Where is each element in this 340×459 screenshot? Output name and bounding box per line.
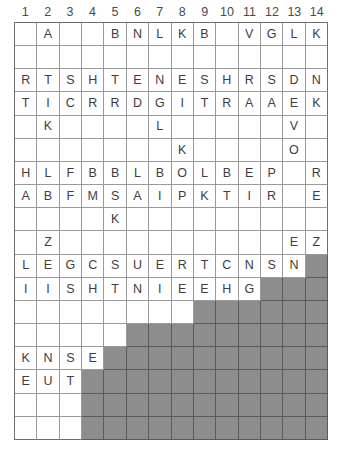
grid-cell-empty[interactable] [82, 116, 104, 139]
grid-cell-letter[interactable]: K [306, 23, 328, 46]
grid-cell-letter[interactable]: I [149, 185, 171, 208]
grid-cell-empty[interactable] [194, 139, 216, 162]
grid-cell-empty[interactable] [60, 208, 82, 231]
grid-cell-letter[interactable]: T [15, 92, 37, 115]
grid-cell-letter[interactable]: N [127, 23, 149, 46]
grid-cell-letter[interactable]: H [15, 162, 37, 185]
grid-cell-empty[interactable] [239, 116, 261, 139]
grid-cell-letter[interactable]: G [239, 278, 261, 301]
grid-cell-letter[interactable]: S [60, 69, 82, 92]
grid-cell-empty[interactable] [172, 231, 194, 254]
grid-cell-letter[interactable]: S [104, 185, 126, 208]
grid-cell-empty[interactable] [306, 139, 328, 162]
grid-cell-empty[interactable] [104, 46, 126, 69]
grid-cell-letter[interactable]: A [37, 23, 59, 46]
grid-cell-empty[interactable] [216, 116, 238, 139]
grid-cell-letter[interactable]: D [283, 69, 305, 92]
grid-cell-empty[interactable] [60, 23, 82, 46]
grid-cell-letter[interactable]: T [194, 92, 216, 115]
grid-cell-letter[interactable]: G [261, 23, 283, 46]
grid-cell-letter[interactable]: L [15, 255, 37, 278]
grid-cell-letter[interactable]: I [239, 185, 261, 208]
grid-cell-letter[interactable]: S [261, 255, 283, 278]
grid-cell-empty[interactable] [127, 231, 149, 254]
grid-cell-letter[interactable]: E [15, 370, 37, 393]
grid-cell-letter[interactable]: B [104, 162, 126, 185]
grid-cell-letter[interactable]: U [37, 370, 59, 393]
grid-cell-letter[interactable]: K [306, 92, 328, 115]
grid-cell-letter[interactable]: H [216, 69, 238, 92]
grid-cell-empty[interactable] [82, 46, 104, 69]
grid-cell-empty[interactable] [60, 324, 82, 347]
grid-cell-letter[interactable]: S [104, 255, 126, 278]
grid-cell-letter[interactable]: L [127, 162, 149, 185]
grid-cell-empty[interactable] [283, 162, 305, 185]
grid-cell-letter[interactable]: U [127, 255, 149, 278]
grid-cell-letter[interactable]: L [194, 162, 216, 185]
grid-cell-letter[interactable]: R [261, 185, 283, 208]
grid-cell-empty[interactable] [37, 139, 59, 162]
grid-cell-empty[interactable] [194, 208, 216, 231]
grid-cell-letter[interactable]: P [172, 185, 194, 208]
grid-cell-letter[interactable]: E [127, 69, 149, 92]
grid-cell-empty[interactable] [283, 208, 305, 231]
grid-cell-letter[interactable]: E [239, 162, 261, 185]
grid-cell-empty[interactable] [149, 208, 171, 231]
grid-cell-empty[interactable] [261, 116, 283, 139]
grid-cell-letter[interactable]: F [60, 162, 82, 185]
grid-cell-letter[interactable]: I [149, 278, 171, 301]
grid-cell-letter[interactable]: T [104, 278, 126, 301]
grid-cell-letter[interactable]: G [149, 92, 171, 115]
grid-cell-letter[interactable]: L [37, 162, 59, 185]
grid-cell-letter[interactable]: I [15, 278, 37, 301]
grid-cell-empty[interactable] [15, 139, 37, 162]
grid-cell-letter[interactable]: N [37, 347, 59, 370]
grid-cell-empty[interactable] [172, 116, 194, 139]
grid-cell-letter[interactable]: N [127, 278, 149, 301]
grid-cell-letter[interactable]: T [37, 69, 59, 92]
grid-cell-empty[interactable] [261, 208, 283, 231]
grid-cell-empty[interactable] [127, 116, 149, 139]
grid-cell-letter[interactable]: N [239, 255, 261, 278]
grid-cell-letter[interactable]: V [239, 23, 261, 46]
grid-cell-letter[interactable]: K [37, 116, 59, 139]
grid-cell-empty[interactable] [306, 46, 328, 69]
grid-cell-letter[interactable]: H [82, 278, 104, 301]
grid-cell-letter[interactable]: E [172, 69, 194, 92]
grid-cell-letter[interactable]: E [306, 185, 328, 208]
grid-cell-empty[interactable] [82, 208, 104, 231]
grid-cell-empty[interactable] [261, 231, 283, 254]
grid-cell-letter[interactable]: A [15, 185, 37, 208]
grid-cell-empty[interactable] [60, 417, 82, 440]
grid-cell-empty[interactable] [82, 231, 104, 254]
grid-cell-empty[interactable] [104, 301, 126, 324]
grid-cell-letter[interactable]: O [283, 139, 305, 162]
grid-cell-empty[interactable] [194, 231, 216, 254]
grid-cell-letter[interactable]: E [37, 255, 59, 278]
grid-cell-empty[interactable] [15, 394, 37, 417]
grid-cell-letter[interactable]: H [82, 69, 104, 92]
letter-grid[interactable]: ABNLKBVGLKRTSHTENESHRSDNTICRRDGITRAAEKKL… [14, 22, 328, 440]
grid-cell-empty[interactable] [15, 417, 37, 440]
grid-cell-empty[interactable] [239, 231, 261, 254]
grid-cell-empty[interactable] [216, 46, 238, 69]
grid-cell-empty[interactable] [127, 208, 149, 231]
grid-cell-letter[interactable]: N [306, 69, 328, 92]
grid-cell-letter[interactable]: E [149, 255, 171, 278]
grid-cell-empty[interactable] [216, 231, 238, 254]
grid-cell-empty[interactable] [216, 23, 238, 46]
grid-cell-letter[interactable]: E [283, 92, 305, 115]
grid-cell-letter[interactable]: T [104, 69, 126, 92]
grid-cell-letter[interactable]: R [216, 92, 238, 115]
grid-cell-empty[interactable] [60, 231, 82, 254]
grid-cell-empty[interactable] [37, 324, 59, 347]
grid-cell-letter[interactable]: L [283, 23, 305, 46]
grid-cell-empty[interactable] [127, 139, 149, 162]
grid-cell-letter[interactable]: C [60, 92, 82, 115]
grid-cell-empty[interactable] [283, 185, 305, 208]
grid-cell-empty[interactable] [216, 139, 238, 162]
grid-cell-letter[interactable]: C [216, 255, 238, 278]
grid-cell-empty[interactable] [15, 46, 37, 69]
grid-cell-letter[interactable]: E [283, 231, 305, 254]
grid-cell-empty[interactable] [104, 139, 126, 162]
